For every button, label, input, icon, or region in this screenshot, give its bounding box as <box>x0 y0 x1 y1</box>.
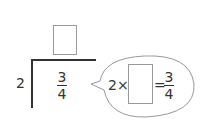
times-sign: × <box>117 77 129 93</box>
dividend-denominator: 4 <box>58 87 67 101</box>
bubble-factor: 2 <box>108 77 117 93</box>
divisor: 2 <box>16 75 25 91</box>
dividend-fraction: 3 4 <box>57 70 67 101</box>
division-bracket-side <box>31 59 33 108</box>
dividend-numerator: 3 <box>58 70 67 84</box>
result-fraction: 3 4 <box>164 70 174 101</box>
division-bracket-top <box>32 59 96 61</box>
quotient-answer-box[interactable] <box>53 25 77 55</box>
bubble-answer-box[interactable] <box>128 64 153 104</box>
result-numerator: 3 <box>165 70 174 84</box>
result-denominator: 4 <box>165 87 174 101</box>
